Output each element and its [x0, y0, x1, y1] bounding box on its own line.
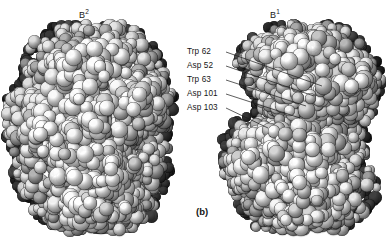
- leader-line-asp-103: [226, 108, 268, 128]
- leader-line-asp-52: [226, 66, 314, 96]
- leader-lines-group: [0, 0, 386, 250]
- leader-line-trp-62: [226, 52, 322, 86]
- leader-line-asp-101: [226, 94, 300, 118]
- leader-line-trp-63: [226, 80, 306, 106]
- figure-canvas: B2 B1 (b) Trp 62Asp 52Trp 63Asp 101Asp 1…: [0, 0, 386, 250]
